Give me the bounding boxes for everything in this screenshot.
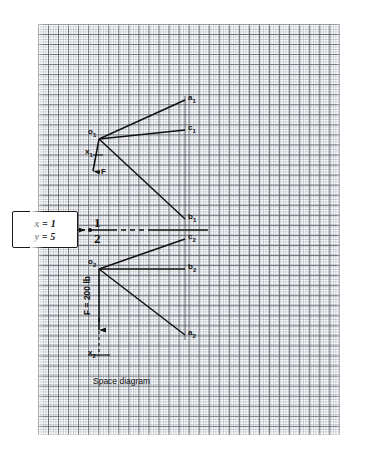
callout-x-value: x = 1 bbox=[34, 217, 56, 230]
ray-o1-a1 bbox=[99, 100, 185, 139]
ray-o2-a2 bbox=[99, 269, 185, 335]
front-view-rays bbox=[99, 239, 185, 335]
point-label-c2: c2 bbox=[188, 233, 196, 243]
reference-line-1-2 bbox=[68, 228, 208, 232]
point-label-b1: b1 bbox=[188, 213, 196, 223]
point-label-c1: c1 bbox=[188, 124, 196, 134]
point-label-b2: b2 bbox=[188, 263, 196, 273]
figure-caption: Space diagram bbox=[93, 376, 150, 386]
point-label-x2: x2 bbox=[88, 349, 96, 359]
space-diagram-figure: x = 1 y = 5 1 2 o1 x1 F a1 c1 b1 o2 x2 c… bbox=[0, 0, 383, 449]
reference-label-bottom: 2 bbox=[94, 232, 101, 245]
top-view-rays bbox=[99, 100, 185, 219]
point-label-a2: a2 bbox=[188, 329, 196, 339]
ray-o1-c1 bbox=[99, 130, 185, 139]
callout-y-value: y = 5 bbox=[34, 230, 55, 243]
coordinate-callout-box[interactable]: x = 1 y = 5 bbox=[12, 211, 78, 248]
reference-label-top: 1 bbox=[94, 216, 101, 229]
ray-o1-b1 bbox=[99, 139, 185, 219]
point-label-x1: x1 bbox=[85, 148, 93, 158]
ray-o2-c2 bbox=[99, 239, 185, 269]
point-label-o2: o2 bbox=[88, 258, 96, 268]
point-label-o1: o1 bbox=[88, 128, 96, 138]
force-label-f: F bbox=[101, 168, 106, 176]
point-label-a1: a1 bbox=[188, 94, 196, 104]
force-magnitude-label: F = 200 lb bbox=[82, 276, 92, 315]
